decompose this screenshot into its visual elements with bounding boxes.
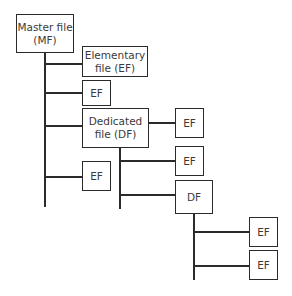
master-file-node: Master file(MF): [16, 14, 74, 53]
ef-df2-b-label: EF: [257, 259, 270, 272]
df-child-trunk-line: [193, 213, 195, 280]
ef-node-df2-a: EF: [249, 217, 278, 247]
connector-df2-ef-a: [193, 231, 249, 233]
ef-node-under-mf: EF: [82, 161, 111, 191]
connector-mf-df: [44, 125, 82, 127]
connector-mf-ef-lower: [44, 176, 82, 178]
ef-elementary-line1: Elementary: [85, 49, 145, 61]
ef-under-mf-label: EF: [90, 170, 103, 183]
ef-df-right-label: EF: [183, 117, 196, 130]
df-child-node: DF: [175, 180, 213, 214]
connector-df2-ef-b: [193, 265, 249, 267]
df-child-label: DF: [187, 191, 201, 204]
ef-df-child-label: EF: [183, 155, 196, 168]
connector-mf-ef-elementary: [44, 63, 82, 65]
df-trunk-line: [119, 147, 121, 209]
ef-node-df2-b: EF: [249, 250, 278, 280]
ef-df2-a-label: EF: [257, 226, 270, 239]
connector-df-ef-right: [148, 122, 175, 124]
df-label-line1: Dedicated: [89, 115, 143, 127]
connector-mf-ef-1: [44, 92, 82, 94]
mf-label-line1: Master file: [17, 21, 72, 33]
df-label-line2: file (DF): [95, 128, 137, 140]
elementary-file-node: Elementaryfile (EF): [82, 46, 148, 77]
dedicated-file-node: Dedicatedfile (DF): [82, 108, 149, 148]
connector-df-df-child: [119, 194, 175, 196]
connector-df-ef-child: [119, 160, 175, 162]
ef-elementary-line2: file (EF): [95, 62, 135, 74]
ef-1-label: EF: [90, 87, 103, 100]
ef-node-df-right: EF: [175, 108, 204, 138]
mf-trunk-line: [44, 52, 46, 207]
ef-node-df-child: EF: [175, 146, 204, 176]
ef-node-1: EF: [82, 80, 111, 106]
mf-label-line2: (MF): [33, 34, 56, 46]
